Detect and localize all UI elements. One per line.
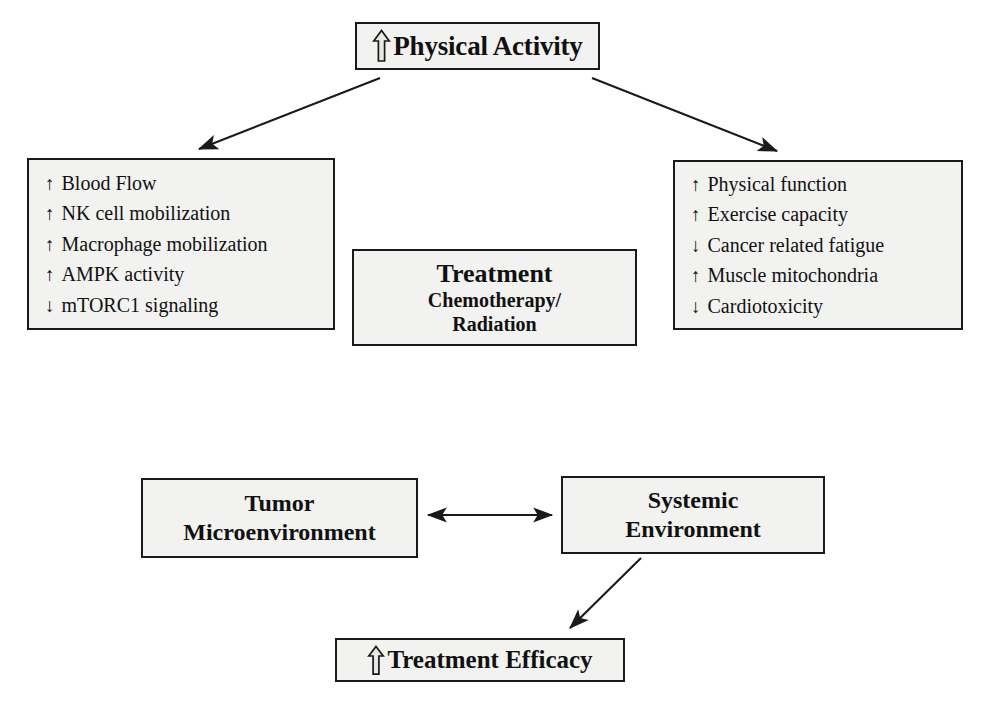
list-item-label: Blood Flow — [62, 168, 157, 198]
arrow-physical-activity-to-local-effects — [199, 78, 380, 149]
increase-arrow-icon: ↑ — [691, 175, 701, 194]
node-treatment-efficacy: Treatment Efficacy — [335, 638, 625, 682]
increase-arrow-icon: ↑ — [45, 174, 55, 193]
tumor-microenvironment-line-1: Tumor — [183, 489, 375, 518]
treatment-line-2: Chemotherapy/ — [428, 288, 561, 312]
list-item: ↑ AMPK activity — [45, 259, 184, 289]
node-tumor-microenvironment: Tumor Microenvironment — [141, 478, 418, 558]
list-item-label: NK cell mobilization — [62, 198, 231, 228]
list-item: ↑ Exercise capacity — [691, 199, 848, 229]
decrease-arrow-icon: ↓ — [691, 297, 701, 316]
list-item: ↑ Blood Flow — [45, 168, 157, 198]
list-item: ↓ Cardiotoxicity — [691, 291, 823, 321]
systemic-environment-line-2: Environment — [625, 515, 761, 544]
list-item: ↓ Cancer related fatigue — [691, 230, 884, 260]
node-treatment: Treatment Chemotherapy/ Radiation — [352, 249, 637, 346]
list-item: ↑ Macrophage mobilization — [45, 229, 268, 259]
tumor-microenvironment-line-2: Microenvironment — [183, 518, 375, 547]
list-item-label: Macrophage mobilization — [62, 229, 268, 259]
treatment-efficacy-label: Treatment Efficacy — [387, 646, 592, 674]
local-effects-list: ↑ Blood Flow ↑ NK cell mobilization ↑ Ma… — [29, 160, 333, 328]
list-item: ↓ mTORC1 signaling — [45, 290, 218, 320]
up-block-arrow-icon — [367, 645, 385, 676]
decrease-arrow-icon: ↓ — [691, 236, 701, 255]
systemic-effects-list: ↑ Physical function ↑ Exercise capacity … — [675, 162, 961, 328]
list-item: ↑ Muscle mitochondria — [691, 260, 878, 290]
node-systemic-environment: Systemic Environment — [561, 476, 825, 554]
node-physical-activity: Physical Activity — [355, 22, 600, 70]
physical-activity-content: Physical Activity — [357, 29, 598, 63]
connector-layer — [0, 0, 986, 710]
treatment-title: Treatment — [437, 259, 553, 288]
list-item-label: Cancer related fatigue — [708, 230, 885, 260]
up-block-arrow-icon — [372, 29, 391, 63]
treatment-line-3: Radiation — [452, 312, 536, 336]
physical-activity-label: Physical Activity — [393, 31, 582, 62]
diagram-canvas: Physical Activity ↑ Blood Flow ↑ NK cell… — [0, 0, 986, 710]
list-item-label: Muscle mitochondria — [708, 260, 879, 290]
list-item-label: Cardiotoxicity — [708, 291, 824, 321]
increase-arrow-icon: ↑ — [45, 204, 55, 223]
increase-arrow-icon: ↑ — [691, 266, 701, 285]
arrow-physical-activity-to-systemic-effects — [592, 78, 777, 151]
node-systemic-effects: ↑ Physical function ↑ Exercise capacity … — [673, 160, 963, 330]
node-local-effects: ↑ Blood Flow ↑ NK cell mobilization ↑ Ma… — [27, 158, 335, 330]
arrow-systemic-environment-to-treatment-efficacy — [570, 558, 641, 628]
increase-arrow-icon: ↑ — [691, 205, 701, 224]
list-item: ↑ NK cell mobilization — [45, 198, 230, 228]
list-item-label: Exercise capacity — [708, 199, 848, 229]
increase-arrow-icon: ↑ — [45, 235, 55, 254]
list-item-label: Physical function — [708, 169, 847, 199]
list-item-label: mTORC1 signaling — [62, 290, 219, 320]
tumor-microenvironment-text: Tumor Microenvironment — [183, 489, 375, 548]
decrease-arrow-icon: ↓ — [45, 296, 55, 315]
list-item: ↑ Physical function — [691, 169, 847, 199]
treatment-efficacy-content: Treatment Efficacy — [337, 645, 623, 676]
systemic-environment-line-1: Systemic — [625, 486, 761, 515]
list-item-label: AMPK activity — [62, 259, 185, 289]
systemic-environment-text: Systemic Environment — [625, 486, 761, 545]
increase-arrow-icon: ↑ — [45, 265, 55, 284]
